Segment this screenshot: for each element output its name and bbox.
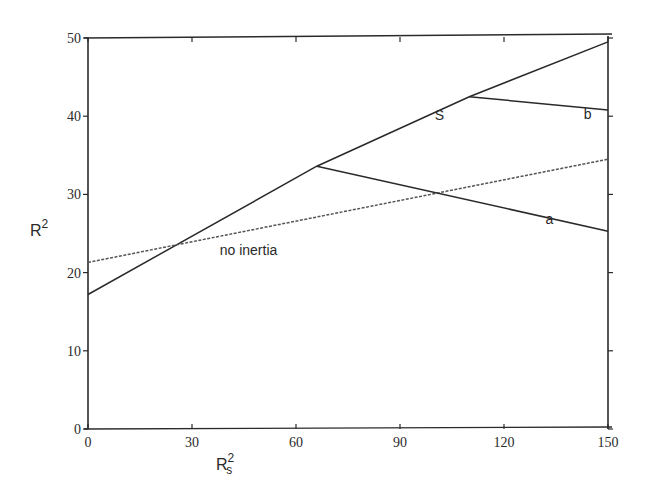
curve-label-no-inertia: no inertia — [220, 242, 278, 258]
axis-ticks: 030609012015001020304050 — [67, 31, 619, 450]
y-tick-label: 30 — [67, 187, 81, 202]
y-tick-label: 20 — [67, 266, 81, 281]
series-no-inertia — [88, 159, 608, 262]
x-axis-top — [84, 34, 612, 38]
y-axis-label: R2 — [30, 217, 49, 239]
x-tick-label: 0 — [85, 435, 92, 450]
x-tick-label: 90 — [393, 435, 407, 450]
y-tick-label: 10 — [67, 344, 81, 359]
chart: 030609012015001020304050 Sno inertiaab R… — [0, 0, 658, 495]
series-S — [88, 42, 608, 295]
y-tick-label: 50 — [67, 31, 81, 46]
x-axis-bottom — [84, 427, 612, 429]
curve-label-S: S — [435, 107, 444, 123]
y-tick-label: 40 — [67, 109, 81, 124]
curve-labels: Sno inertiaab — [220, 106, 592, 258]
x-tick-label: 150 — [598, 435, 619, 450]
y-tick-label: 0 — [74, 422, 81, 437]
x-tick-label: 60 — [289, 435, 303, 450]
curve-label-b: b — [584, 106, 592, 122]
series-a — [317, 166, 608, 231]
plot-frame — [84, 34, 612, 429]
x-tick-label: 120 — [494, 435, 515, 450]
series-lines — [88, 42, 608, 295]
curve-label-a: a — [546, 211, 554, 227]
x-axis-label: R2s — [216, 451, 235, 477]
x-tick-label: 30 — [185, 435, 199, 450]
